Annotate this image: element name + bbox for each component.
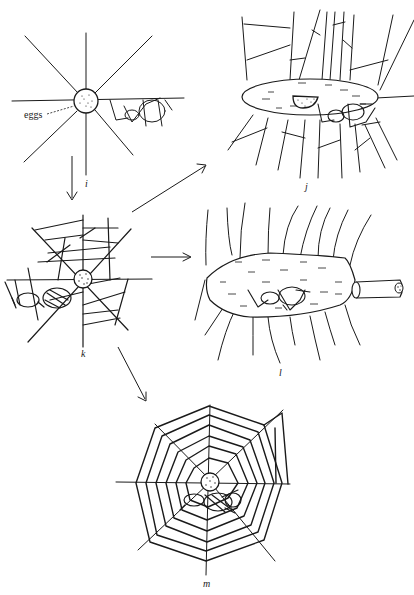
eggs-leader-line (47, 106, 74, 114)
panel-i: eggs i (12, 33, 184, 189)
panel-j: j (228, 10, 414, 192)
tube-retreat (352, 280, 403, 298)
eggs-label: eggs (24, 109, 42, 120)
panel-label-l: l (279, 367, 282, 378)
panel-l: l (195, 203, 403, 378)
egg-sac-icon (74, 270, 92, 288)
panel-k: k (5, 215, 152, 359)
spider-icon (110, 98, 172, 126)
panel-m: m (116, 405, 290, 589)
panel-label-j: j (303, 181, 308, 192)
egg-sac-icon (74, 89, 98, 113)
figure-canvas: eggs i (0, 0, 414, 595)
arrow-k-to-m (118, 347, 146, 401)
arrow-i-to-k: i (67, 156, 77, 200)
arrow-k-to-j (132, 164, 206, 212)
panel-label-m: m (203, 578, 210, 589)
panel-label-k: k (81, 348, 86, 359)
egg-sac-icon (201, 473, 219, 491)
silk-chamber (206, 253, 355, 317)
panel-label-i: i (85, 178, 88, 189)
arrow-k-to-l (151, 253, 191, 261)
